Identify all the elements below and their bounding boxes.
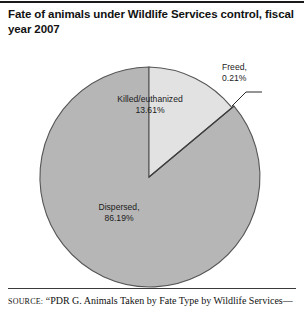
figure-container: Fate of animals under Wildlife Services … xyxy=(0,0,304,313)
pie-label-killed-euthanized-value: 13.61% xyxy=(135,105,164,115)
pie-label-dispersed: Dispersed, 86.19% xyxy=(54,202,184,223)
pie-label-dispersed-name: Dispersed, xyxy=(98,202,139,212)
source-caption: SOURCE: “PDR G. Animals Taken by Fate Ty… xyxy=(8,294,302,308)
figure-title: Fate of animals under Wildlife Services … xyxy=(8,7,300,37)
pie-label-killed-euthanized: Killed/euthanized 13.61% xyxy=(85,94,215,115)
pie-label-freed-name: Freed, xyxy=(222,62,247,72)
top-rule-divider xyxy=(0,1,304,3)
source-citation-text: “PDR G. Animals Taken by Fate Type by Wi… xyxy=(46,295,293,306)
pie-label-freed: Freed, 0.21% xyxy=(222,62,296,83)
source-label: SOURCE: xyxy=(8,297,43,306)
freed-leader-line xyxy=(232,92,262,106)
pie-label-freed-value: 0.21% xyxy=(222,73,246,83)
pie-label-dispersed-value: 86.19% xyxy=(104,213,133,223)
pie-chart: Killed/euthanized 13.61% Dispersed, 86.1… xyxy=(0,44,304,290)
pie-label-killed-euthanized-name: Killed/euthanized xyxy=(117,94,182,104)
source-divider xyxy=(8,288,296,289)
